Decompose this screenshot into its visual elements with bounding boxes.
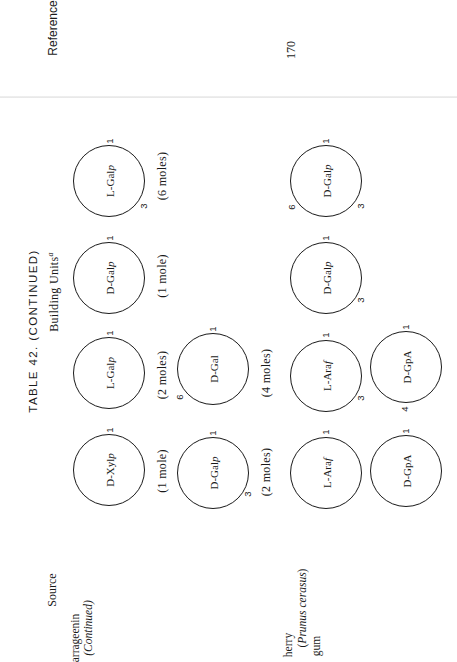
- source-heading: Source: [46, 573, 58, 606]
- footnote-marker: a: [46, 252, 55, 256]
- column-heading-building-units: Building Unitsa: [47, 252, 60, 332]
- sugar-label: L-Galp: [105, 165, 116, 197]
- source-name: herry: [281, 633, 295, 657]
- sugar-label: L-Araf: [322, 361, 333, 391]
- position-1: 1: [105, 138, 115, 143]
- source-species: (Prunus cerasus): [295, 569, 309, 648]
- source-type: gum: [309, 636, 323, 656]
- position-1: 1: [321, 332, 331, 337]
- position-4: 4: [400, 406, 410, 411]
- position-3: 3: [356, 203, 366, 208]
- position-1: 1: [401, 324, 411, 329]
- mole-count: (2 moles): [156, 351, 168, 399]
- sugar-label: D-Galp: [322, 165, 333, 198]
- column-heading-text: Building Units: [47, 257, 61, 332]
- position-6: 6: [287, 204, 297, 209]
- position-3: 3: [356, 297, 366, 302]
- position-1: 1: [321, 235, 331, 240]
- position-3: 3: [356, 395, 366, 400]
- sugar-label: D-Xylp: [105, 453, 116, 487]
- mole-count: (1 mole): [156, 449, 168, 492]
- position-1: 1: [401, 428, 411, 433]
- table-title: TABLE 42. (CONTINUED): [28, 249, 40, 412]
- position-1: 1: [321, 138, 331, 143]
- sugar-label: D-Gal: [209, 355, 220, 383]
- position-1: 1: [105, 330, 115, 335]
- position-1: 1: [105, 235, 115, 240]
- sugar-label: D-Galp: [209, 457, 220, 490]
- mole-count: (2 moles): [260, 448, 272, 496]
- position-1: 1: [321, 429, 331, 434]
- sugar-label: L-Galp: [105, 357, 116, 389]
- mole-count: (4 moles): [260, 349, 272, 397]
- mole-count: (6 moles): [156, 152, 168, 200]
- sugar-label: L-Araf: [322, 458, 333, 488]
- mole-count: (1 mole): [156, 254, 168, 297]
- sugar-label: D-Galp: [105, 262, 116, 295]
- position-6: 6: [175, 394, 185, 399]
- position-1: 1: [208, 326, 218, 331]
- position-3: 3: [243, 491, 253, 496]
- sugar-label: D-GpA: [402, 455, 413, 488]
- position-3: 3: [139, 203, 149, 208]
- sugar-label: D-GpA: [402, 351, 413, 384]
- running-header-reference: Reference: [47, 0, 59, 55]
- position-1: 1: [208, 430, 218, 435]
- source-continued: (Continued): [81, 600, 95, 656]
- page-number: 170: [285, 41, 297, 59]
- position-1: 1: [105, 427, 115, 432]
- page-divider: [0, 96, 457, 98]
- sugar-label: D-Galp: [322, 262, 333, 295]
